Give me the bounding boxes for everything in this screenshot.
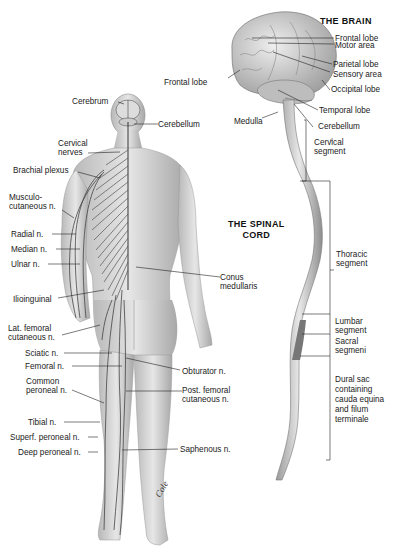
label-occipital-lobe: Occipital lobe — [331, 85, 380, 94]
label-ilioinguinal: Ilioinguinal — [13, 295, 52, 304]
label-post-femoral-cutaneous: Post. femoral cutaneous n. — [182, 386, 230, 404]
label-tibial: Tibial n. — [28, 418, 56, 427]
label-superf-peroneal: Superf. peroneal n. — [10, 433, 80, 442]
label-musculocutaneous: Musculo- cutaneous n. — [9, 193, 56, 211]
label-brain-cerebellum: Cerebellum — [318, 122, 360, 131]
label-femoral: Femoral n. — [25, 362, 64, 371]
label-dural-sac: Dural sac containing cauda equina and fi… — [335, 375, 384, 425]
label-common-peroneal: Common peroneal n. — [26, 377, 67, 395]
label-obturator: Obturator n. — [182, 367, 226, 376]
label-saphenous: Saphenous n. — [180, 445, 231, 454]
label-parietal-lobe: Parietal lobe — [333, 60, 379, 69]
label-cerebrum: Cerebrum — [72, 97, 108, 106]
human-body-figure — [61, 94, 212, 545]
label-motor-area: Motor area — [335, 41, 375, 50]
brain-title: THE BRAIN — [320, 16, 372, 27]
label-sciatic: Sciatic n. — [25, 349, 58, 358]
label-thoracic-segment: Thoracic segment — [336, 250, 367, 268]
label-cervical-nerves: Cervical nerves — [58, 139, 88, 157]
label-ulnar: Ulnar n. — [11, 260, 40, 269]
label-sensory-area: Sensory area — [333, 70, 382, 79]
label-brachial-plexus: Brachial plexus — [13, 166, 69, 175]
label-cervical-segment: Cervical segment — [314, 138, 345, 156]
spinal-cord-title: THE SPINAL CORD — [228, 219, 285, 241]
label-radial: Radial n. — [11, 230, 43, 239]
label-frontal-lobe-left: Frontal lobe — [164, 78, 207, 87]
label-lat-femoral-cutaneous: Lat. femoral cutaneous n. — [8, 324, 55, 342]
label-temporal-lobe: Temporal lobe — [319, 106, 370, 115]
label-lumbar-segment: Lumbar segment — [335, 317, 366, 335]
label-conus-medullaris: Conus medullaris — [220, 273, 257, 291]
label-median: Median n. — [11, 245, 47, 254]
label-deep-peroneal: Deep peroneal n. — [18, 448, 81, 457]
spinal-cord-figure — [276, 100, 322, 480]
label-sacral-segment: Sacral segmeni — [335, 337, 366, 355]
label-medulla: Medulla — [234, 117, 263, 126]
label-body-cerebellum: Cerebellum — [158, 120, 200, 129]
